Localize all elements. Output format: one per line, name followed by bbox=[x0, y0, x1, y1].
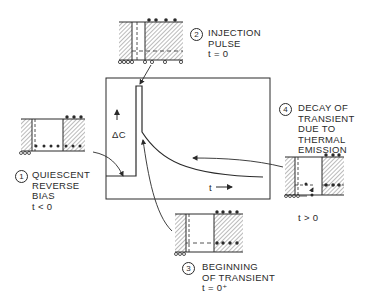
band-diagram-stage-2 bbox=[118, 18, 183, 84]
stage-4-condition: t > 0 bbox=[298, 212, 318, 223]
stage-2-number: 2 bbox=[190, 28, 203, 41]
stage-2-label: INJECTION PULSE t = 0 bbox=[208, 28, 261, 60]
delta-c-label: ΔC bbox=[112, 130, 126, 141]
stage-1-label: QUIESCENT REVERSE BIAS t < 0 bbox=[32, 170, 90, 212]
band-diagram-stage-1 bbox=[20, 115, 124, 176]
stage-4-label: DECAY OF TRANSIENT DUE TO THERMAL EMISSI… bbox=[298, 103, 355, 156]
band-diagram-stage-3 bbox=[143, 140, 243, 256]
transient-graph bbox=[106, 78, 270, 199]
time-label: t bbox=[209, 183, 212, 194]
stage-3-label: BEGINNING OF TRANSIENT t = 0⁺ bbox=[202, 262, 275, 294]
stage-3-number: 3 bbox=[182, 262, 195, 275]
stage-4-number: 4 bbox=[279, 103, 292, 116]
band-diagram-stage-4 bbox=[193, 153, 344, 197]
stage-1-number: 1 bbox=[15, 170, 28, 183]
